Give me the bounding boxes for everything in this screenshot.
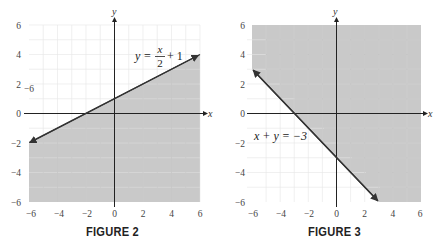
svg-text:−2: −2 [11, 139, 21, 149]
x-tick-labels: −6 −4 −2 0 2 4 6 [248, 209, 423, 219]
svg-text:−6: −6 [248, 209, 258, 219]
svg-text:y =: y = [134, 49, 151, 63]
svg-text:−6: −6 [11, 198, 21, 208]
svg-text:6: 6 [240, 21, 245, 31]
y-axis-label: y [332, 6, 338, 17]
figure-2: x y 6 4 2 0 −2 −4 −6 −6 −6 [0, 0, 218, 251]
svg-text:2: 2 [240, 80, 245, 90]
svg-text:−2: −2 [304, 209, 314, 219]
svg-text:0: 0 [240, 109, 245, 119]
svg-text:4: 4 [240, 50, 245, 60]
figure-3-plot: x y 6 4 2 0 −2 −4 −6 −6 −4 −2 0 2 4 6 x … [218, 0, 436, 220]
svg-text:−4: −4 [11, 168, 21, 178]
svg-text:2: 2 [141, 209, 146, 219]
svg-text:0: 0 [16, 109, 21, 119]
y-axis-label: y [111, 6, 117, 17]
svg-text:2: 2 [16, 80, 21, 90]
svg-text:0: 0 [334, 209, 339, 219]
svg-text:x: x [157, 43, 163, 55]
svg-text:−6: −6 [235, 198, 245, 208]
svg-text:−2: −2 [82, 209, 92, 219]
svg-text:−2: −2 [235, 139, 245, 149]
svg-text:6: 6 [198, 209, 203, 219]
svg-text:6: 6 [418, 209, 423, 219]
svg-text:−6: −6 [24, 84, 34, 94]
figure-3: x y 6 4 2 0 −2 −4 −6 −6 −4 −2 0 2 4 6 x … [218, 0, 436, 251]
figure-2-plot: x y 6 4 2 0 −2 −4 −6 −6 −6 [0, 0, 218, 220]
x-axis-label: x [427, 108, 433, 119]
y-tick-labels: 6 4 2 0 −2 −4 −6 [11, 21, 21, 208]
svg-text:+ 1: + 1 [167, 49, 183, 63]
x-tick-labels: −6 [24, 84, 34, 94]
equation-label: x + y = −3 [253, 129, 307, 143]
svg-text:4: 4 [16, 50, 21, 60]
svg-text:−4: −4 [276, 209, 286, 219]
svg-text:6: 6 [16, 21, 21, 31]
x-axis-label: x [207, 108, 213, 119]
svg-text:2: 2 [157, 57, 163, 69]
svg-text:2: 2 [362, 209, 367, 219]
svg-text:−4: −4 [54, 209, 64, 219]
figure-2-caption: FIGURE 2 [86, 224, 139, 239]
svg-text:4: 4 [169, 209, 174, 219]
svg-text:4: 4 [390, 209, 395, 219]
y-tick-labels: 6 4 2 0 −2 −4 −6 [235, 21, 245, 208]
svg-text:−6: −6 [26, 209, 36, 219]
x-tick-labels-bottom: −6 −4 −2 0 2 4 6 [26, 209, 203, 219]
svg-text:−4: −4 [235, 168, 245, 178]
svg-text:0: 0 [112, 209, 117, 219]
figure-3-caption: FIGURE 3 [308, 224, 361, 239]
